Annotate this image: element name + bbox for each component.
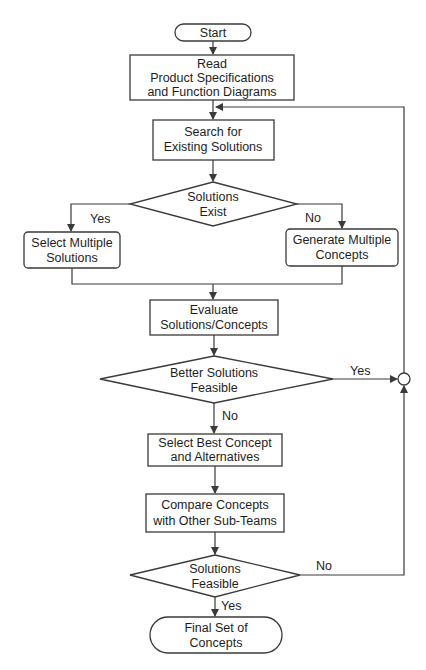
generate-multiple-line2: Concepts [316, 248, 369, 262]
better-label-line1: Better Solutions [170, 366, 258, 380]
select-multiple-line2: Solutions [46, 251, 97, 265]
edge-label-better-no: No [222, 409, 238, 423]
generate-multiple-line1: Generate Multiple [293, 233, 392, 247]
final-line2: Concepts [190, 636, 243, 650]
select-multiple-line1: Select Multiple [31, 236, 112, 250]
edge-label-exist-no: No [305, 211, 321, 225]
exist-label-line1: Solutions [187, 190, 238, 204]
feasible-label-line2: Feasible [191, 577, 238, 591]
edge-label-better-yes: Yes [350, 364, 370, 378]
select-best-box: Select Best Concept and Alternatives [148, 434, 282, 466]
evaluate-box: Evaluate Solutions/Concepts [150, 300, 278, 335]
select-best-line1: Select Best Concept [158, 436, 272, 450]
generate-multiple-box: Generate Multiple Concepts [286, 229, 398, 266]
better-solutions-decision: Better Solutions Feasible [100, 356, 333, 403]
final-terminator: Final Set of Concepts [150, 617, 282, 653]
arrow-feasible-no [300, 386, 404, 575]
read-label-line2: Product Specifications [150, 71, 274, 85]
final-line1: Final Set of [184, 621, 248, 635]
solutions-feasible-decision: Solutions Feasible [130, 555, 300, 597]
select-best-line2: and Alternatives [171, 450, 260, 464]
read-label-line1: Read [197, 57, 227, 71]
solutions-exist-decision: Solutions Exist [130, 182, 297, 226]
edge-label-feasible-yes: Yes [221, 599, 241, 613]
compare-box: Compare Concepts with Other Sub-Teams [146, 494, 284, 532]
search-label-line1: Search for [184, 125, 242, 139]
search-label-line2: Existing Solutions [164, 140, 263, 154]
compare-line1: Compare Concepts [161, 498, 269, 512]
exist-label-line2: Exist [199, 205, 227, 219]
feasible-label-line1: Solutions [189, 562, 240, 576]
evaluate-line1: Evaluate [190, 303, 239, 317]
start-label: Start [200, 26, 227, 40]
junction-connector [398, 373, 410, 385]
edge-label-exist-yes: Yes [90, 212, 110, 226]
flowchart: Start Read Product Specifications and Fu… [0, 0, 426, 670]
compare-line2: with Other Sub-Teams [152, 514, 277, 528]
edge-label-feasible-no: No [316, 559, 332, 573]
select-multiple-box: Select Multiple Solutions [24, 232, 120, 268]
search-solutions-box: Search for Existing Solutions [153, 120, 274, 160]
evaluate-line2: Solutions/Concepts [160, 318, 268, 332]
read-label-line3: and Function Diagrams [147, 85, 276, 99]
better-label-line2: Feasible [190, 381, 237, 395]
read-specs-box: Read Product Specifications and Function… [130, 55, 294, 100]
merge-line [72, 266, 342, 284]
start-terminator: Start [175, 24, 251, 41]
